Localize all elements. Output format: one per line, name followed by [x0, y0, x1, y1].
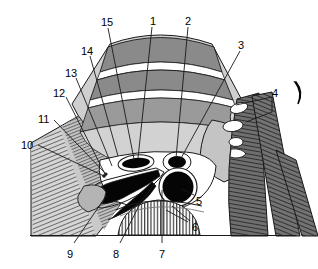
diagram-canvas	[0, 0, 318, 269]
anatomical-figure: 15 1 2 14 3 13 4 12 11 10 5 6 9 8 7	[0, 0, 318, 269]
right-crescent-mark	[295, 82, 301, 104]
right-fat-oval-3	[229, 138, 243, 147]
label-15: 15	[101, 17, 113, 28]
label-8: 8	[113, 249, 119, 260]
label-9: 9	[67, 249, 73, 260]
label-12: 12	[53, 88, 65, 99]
label-14: 14	[81, 46, 93, 57]
label-3: 3	[238, 40, 244, 51]
label-5: 5	[196, 196, 202, 207]
label-7: 7	[159, 249, 165, 260]
leader-dot-11	[104, 172, 107, 175]
vessel-3-lumen	[168, 156, 186, 168]
right-striped-muscle-group	[222, 92, 318, 236]
label-2: 2	[185, 16, 191, 27]
label-10: 10	[21, 140, 33, 151]
vessel-5-lumen	[163, 172, 194, 203]
label-13: 13	[65, 68, 77, 79]
lower-striped-dome	[116, 200, 204, 235]
label-4: 4	[272, 88, 278, 99]
label-6: 6	[192, 222, 198, 233]
label-11: 11	[38, 114, 49, 125]
label-1: 1	[150, 16, 156, 27]
